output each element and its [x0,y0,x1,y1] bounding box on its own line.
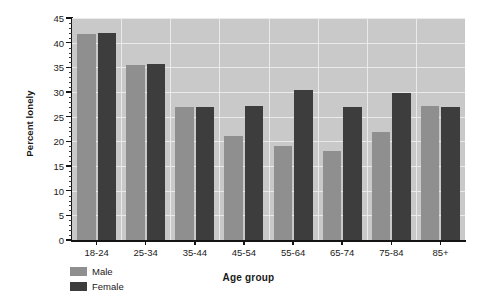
bar-chart: Percent lonely 051015202530354045 Age gr… [0,0,497,308]
y-axis-minor-tick [69,151,73,152]
y-axis-minor-tick [69,210,73,211]
y-axis-minor-tick [69,161,73,162]
y-axis-minor-tick [69,225,73,226]
legend-swatch-female [70,282,87,291]
y-axis-minor-tick [69,57,73,58]
y-axis-minor-tick [69,23,73,24]
y-axis-tick [66,67,72,69]
y-axis-minor-tick [69,186,73,187]
y-axis-tick [66,17,72,19]
y-axis-minor-tick [69,97,73,98]
bar-male-55-64 [274,146,293,240]
x-axis-tick-label: 75-84 [379,247,403,258]
y-axis-tick-label: 5 [59,210,64,221]
y-axis-minor-tick [69,131,73,132]
bar-female-75-84 [392,93,411,240]
x-axis-tick-label: 18-24 [84,247,108,258]
y-axis-minor-tick [69,38,73,39]
x-axis-tick-label: 85+ [432,247,448,258]
y-axis-minor-tick [69,171,73,172]
gridline-vertical [269,18,270,240]
x-axis-line [71,240,466,242]
y-axis-minor-tick [69,53,73,54]
x-axis-tick [391,240,393,245]
y-axis-minor-tick [69,112,73,113]
y-axis-title: Percent lonely [24,54,35,194]
y-axis-tick [66,190,72,192]
y-axis-minor-tick [69,146,73,147]
x-axis-tick [145,240,147,245]
chart-legend: MaleFemale [70,264,124,294]
y-axis-minor-tick [69,122,73,123]
bar-male-25-34 [126,65,145,240]
y-axis-minor-tick [69,235,73,236]
bar-male-18-24 [77,34,96,240]
y-axis-tick [66,116,72,118]
y-axis-minor-tick [69,127,73,128]
bar-male-65-74 [323,151,342,240]
y-axis-minor-tick [69,28,73,29]
y-axis-minor-tick [69,77,73,78]
bar-female-55-64 [294,90,313,240]
y-axis-minor-tick [69,82,73,83]
legend-item-male: Male [70,264,124,279]
y-axis-minor-tick [69,102,73,103]
x-axis-tick [341,240,343,245]
x-axis-tick-label: 35-44 [183,247,207,258]
y-axis-minor-tick [69,176,73,177]
gridline-vertical [367,18,368,240]
legend-item-female: Female [70,279,124,294]
y-axis-tick-label: 10 [53,185,64,196]
y-axis-tick-label: 20 [53,136,64,147]
gridline-vertical [416,18,417,240]
y-axis-tick-label: 35 [53,62,64,73]
y-axis-minor-tick [69,196,73,197]
y-axis-tick-label: 40 [53,37,64,48]
legend-label-male: Male [92,266,113,277]
legend-label-female: Female [92,281,124,292]
x-axis-tick [96,240,98,245]
bar-male-85+ [421,106,440,240]
x-axis-tick-label: 55-64 [281,247,305,258]
bar-female-65-74 [343,107,362,240]
y-axis-minor-tick [69,181,73,182]
y-axis-minor-tick [69,87,73,88]
y-axis-tick [66,91,72,93]
y-axis-minor-tick [69,205,73,206]
y-axis-tick [66,215,72,217]
bar-female-45-54 [245,106,264,240]
y-axis-tick [66,165,72,167]
y-axis-tick [66,239,72,241]
bar-female-35-44 [196,107,215,240]
bar-male-35-44 [175,107,194,240]
legend-swatch-male [70,267,87,276]
x-axis-tick-label: 25-34 [134,247,158,258]
bar-female-85+ [441,107,460,240]
y-axis-tick [66,141,72,143]
y-axis-minor-tick [69,156,73,157]
gridline-vertical [318,18,319,240]
x-axis-tick [440,240,442,245]
y-axis-minor-tick [69,220,73,221]
y-axis-minor-tick [69,62,73,63]
y-axis-minor-tick [69,72,73,73]
gridline-vertical [170,18,171,240]
bar-male-75-84 [372,132,391,240]
bar-female-25-34 [147,64,166,240]
x-axis-tick [292,240,294,245]
plot-area: 051015202530354045 [72,18,465,240]
y-axis-tick-label: 15 [53,161,64,172]
x-axis-tick-label: 45-54 [232,247,256,258]
y-axis-tick-label: 45 [53,13,64,24]
y-axis-minor-tick [69,230,73,231]
y-axis-tick-label: 0 [59,235,64,246]
bar-female-18-24 [98,33,117,240]
y-axis-tick-label: 25 [53,111,64,122]
x-axis-tick-label: 65-74 [330,247,354,258]
x-axis-tick [194,240,196,245]
y-axis-minor-tick [69,33,73,34]
y-axis-minor-tick [69,48,73,49]
y-axis-minor-tick [69,136,73,137]
y-axis-minor-tick [69,201,73,202]
x-axis-tick [243,240,245,245]
